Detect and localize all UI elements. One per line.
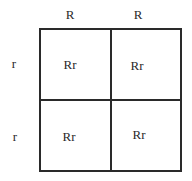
- column-allele-1: R: [60, 8, 80, 21]
- cell-r1-c1: Rr: [55, 58, 85, 71]
- column-allele-2: R: [128, 8, 148, 21]
- horizontal-divider: [39, 99, 182, 101]
- row-allele-1: r: [4, 57, 24, 70]
- cell-r1-c2: Rr: [122, 59, 152, 72]
- cell-r2-c2: Rr: [124, 128, 154, 141]
- cell-r2-c1: Rr: [54, 130, 84, 143]
- row-allele-2: r: [5, 130, 25, 143]
